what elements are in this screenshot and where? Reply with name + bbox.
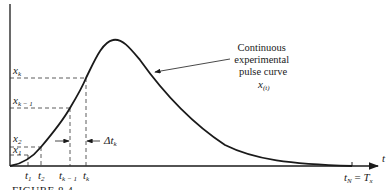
pulse-curve-diagram: Continuous experimental pulse curve x(t)…: [0, 0, 390, 190]
xlabel-t1: t1: [25, 169, 32, 183]
xlabel-tk-1: tk − 1: [59, 169, 77, 183]
ylabel-xk-1: xk − 1: [12, 94, 33, 108]
figure-caption: FIGURE 8.4: [12, 184, 73, 190]
pulse-curve: [10, 40, 352, 166]
annotation-text: Continuous experimental pulse curve: [234, 42, 291, 77]
xlabel-tk: tk: [83, 169, 90, 183]
xlabel-t2: t2: [38, 169, 45, 183]
delta-t-label: Δtk: [103, 134, 118, 148]
annotation-leader: [155, 59, 230, 72]
dashed-guides: [10, 78, 86, 166]
tn-label: tN = Tx: [344, 171, 374, 185]
annotation-symbol: x(t): [257, 78, 270, 92]
ylabel-xk: xk: [12, 64, 22, 78]
x-axis-label: t: [382, 152, 386, 164]
